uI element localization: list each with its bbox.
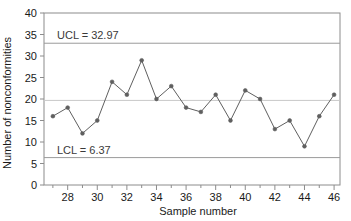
x-tick-label: 42	[269, 191, 281, 203]
y-tick-label: 5	[31, 158, 37, 170]
x-tick-label: 38	[210, 191, 222, 203]
y-tick-label: 30	[25, 50, 37, 62]
x-axis-title: Sample number	[159, 205, 237, 217]
data-point	[214, 93, 218, 97]
chart-canvas: 0510152025303540 28303234363840424446 UC…	[0, 0, 351, 221]
y-tick-label: 10	[25, 136, 37, 148]
y-axis-title: Number of nonconformities	[1, 36, 13, 169]
y-tick-label: 35	[25, 29, 37, 41]
x-axis-ticks	[53, 185, 334, 190]
data-point	[66, 106, 70, 110]
x-tick-label: 44	[298, 191, 310, 203]
x-tick-label: 36	[180, 191, 192, 203]
data-point	[303, 144, 307, 148]
data-point	[288, 119, 292, 123]
x-tick-label: 46	[328, 191, 340, 203]
data-point	[155, 97, 159, 101]
data-point	[125, 93, 129, 97]
data-point	[81, 132, 85, 136]
y-axis-ticks	[40, 13, 44, 185]
x-tick-label: 40	[239, 191, 251, 203]
control-chart: 0510152025303540 28303234363840424446 UC…	[0, 0, 351, 221]
limit-label-lcl: LCL = 6.37	[57, 144, 111, 156]
data-point	[199, 110, 203, 114]
data-point	[95, 119, 99, 123]
data-point	[184, 106, 188, 110]
y-tick-label: 25	[25, 72, 37, 84]
data-point	[317, 114, 321, 118]
data-point	[273, 127, 277, 131]
data-point	[229, 119, 233, 123]
data-point	[332, 93, 336, 97]
data-point	[169, 84, 173, 88]
x-tick-label: 34	[150, 191, 162, 203]
data-point	[140, 58, 144, 62]
x-tick-label: 32	[121, 191, 133, 203]
data-point	[243, 89, 247, 93]
data-point	[51, 114, 55, 118]
data-point	[258, 97, 262, 101]
x-tick-label: 30	[91, 191, 103, 203]
x-axis-tick-labels: 28303234363840424446	[62, 191, 341, 203]
x-tick-label: 28	[62, 191, 74, 203]
limit-label-ucl: UCL = 32.97	[57, 29, 119, 41]
y-tick-label: 40	[25, 7, 37, 19]
y-tick-label: 20	[25, 93, 37, 105]
y-tick-label: 0	[31, 179, 37, 191]
y-tick-label: 15	[25, 115, 37, 127]
y-axis-tick-labels: 0510152025303540	[25, 7, 37, 191]
data-point	[110, 80, 114, 84]
